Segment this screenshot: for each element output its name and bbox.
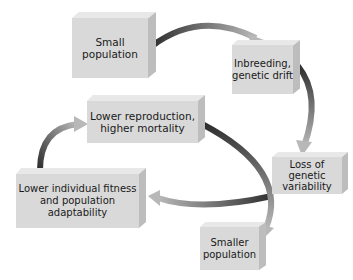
- node-loss-variability: Loss of genetic variability: [272, 152, 348, 194]
- box-side-face: [198, 95, 205, 143]
- node-label: Inbreeding, genetic drift: [232, 45, 293, 94]
- node-label: Smaller population: [200, 227, 259, 270]
- arrow-loss-to-fitness: [148, 190, 272, 206]
- box-side-face: [259, 222, 266, 270]
- box-side-face: [342, 152, 348, 194]
- node-label: Small population: [72, 18, 148, 78]
- node-lower-fitness: Lower individual fitness and population …: [16, 168, 146, 228]
- node-label: Loss of genetic variability: [272, 157, 342, 194]
- node-lower-reproduction: Lower reproduction, higher mortality: [87, 95, 205, 143]
- box-side-face: [139, 168, 146, 228]
- node-label: Lower individual fitness and population …: [16, 174, 139, 228]
- node-small-population: Small population: [72, 12, 156, 78]
- box-side-face: [293, 40, 300, 94]
- node-inbreeding-drift: Inbreeding, genetic drift: [232, 40, 300, 94]
- box-side-face: [148, 12, 156, 78]
- extinction-vortex-diagram: Small population Inbreeding, genetic dri…: [0, 0, 353, 280]
- node-smaller-population: Smaller population: [200, 222, 266, 270]
- node-label: Lower reproduction, higher mortality: [87, 101, 198, 143]
- arrow-fitness-to-reproduction: [40, 116, 88, 170]
